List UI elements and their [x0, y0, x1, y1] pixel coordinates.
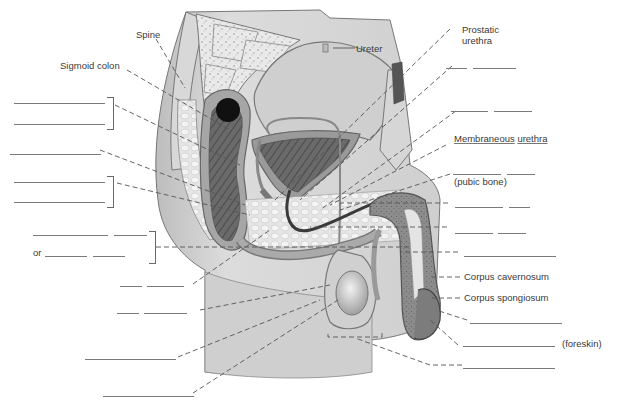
blank-L10[interactable]	[85, 359, 176, 360]
blank-R9[interactable]	[463, 368, 555, 369]
blank-L9a[interactable]	[117, 313, 139, 314]
blank-R8[interactable]	[463, 346, 555, 347]
blank-R2a[interactable]	[451, 111, 488, 112]
blank-L3[interactable]	[10, 154, 101, 155]
blank-R3a[interactable]	[453, 174, 501, 175]
blank-R5b[interactable]	[498, 233, 526, 234]
bracket-1	[107, 97, 114, 130]
blank-L2[interactable]	[14, 124, 105, 125]
blank-L4[interactable]	[14, 182, 105, 183]
blank-L9b[interactable]	[144, 313, 187, 314]
label-urethra: urethra	[517, 133, 547, 144]
blank-L11[interactable]	[103, 396, 194, 397]
rectum	[200, 90, 250, 250]
blank-L7b[interactable]	[93, 256, 125, 257]
bracket-3	[149, 231, 156, 264]
blank-R1b[interactable]	[473, 68, 516, 69]
blank-R1a[interactable]	[446, 68, 467, 69]
testis	[336, 271, 368, 315]
label-pubic-bone-hint: (pubic bone)	[454, 176, 507, 187]
blank-L8b[interactable]	[147, 286, 184, 287]
blank-R5a[interactable]	[455, 233, 493, 234]
label-or: or	[33, 247, 41, 258]
label-spine: Spine	[136, 29, 160, 40]
label-sigmoid-colon: Sigmoid colon	[60, 60, 120, 71]
label-foreskin-hint: (foreskin)	[562, 338, 602, 349]
label-membraneous: Membraneous	[454, 133, 515, 144]
label-corpus-cavernosum: Corpus cavernosum	[464, 271, 549, 282]
label-ureter: Ureter	[356, 43, 382, 54]
glans	[414, 289, 440, 339]
label-prostatic-urethra-line1: Prostatic	[462, 24, 499, 35]
bracket-2	[107, 176, 114, 208]
label-membraneous-urethra: Membraneous urethra	[454, 133, 547, 144]
blank-R3b[interactable]	[507, 174, 535, 175]
blank-R7[interactable]	[470, 323, 562, 324]
blank-L5[interactable]	[14, 202, 105, 203]
blank-L8a[interactable]	[120, 286, 142, 287]
ureter-stub	[323, 44, 328, 52]
blank-L6a[interactable]	[33, 235, 108, 236]
blank-R4a[interactable]	[455, 207, 503, 208]
blank-R4b[interactable]	[509, 207, 530, 208]
label-corpus-spongiosum: Corpus spongiosum	[464, 292, 549, 303]
blank-L6b[interactable]	[114, 235, 147, 236]
label-prostatic-urethra-line2: urethra	[462, 35, 492, 46]
blank-R2b[interactable]	[494, 111, 532, 112]
blank-R6[interactable]	[464, 256, 556, 257]
blank-L7a[interactable]	[45, 256, 87, 257]
blank-L1[interactable]	[14, 103, 105, 104]
